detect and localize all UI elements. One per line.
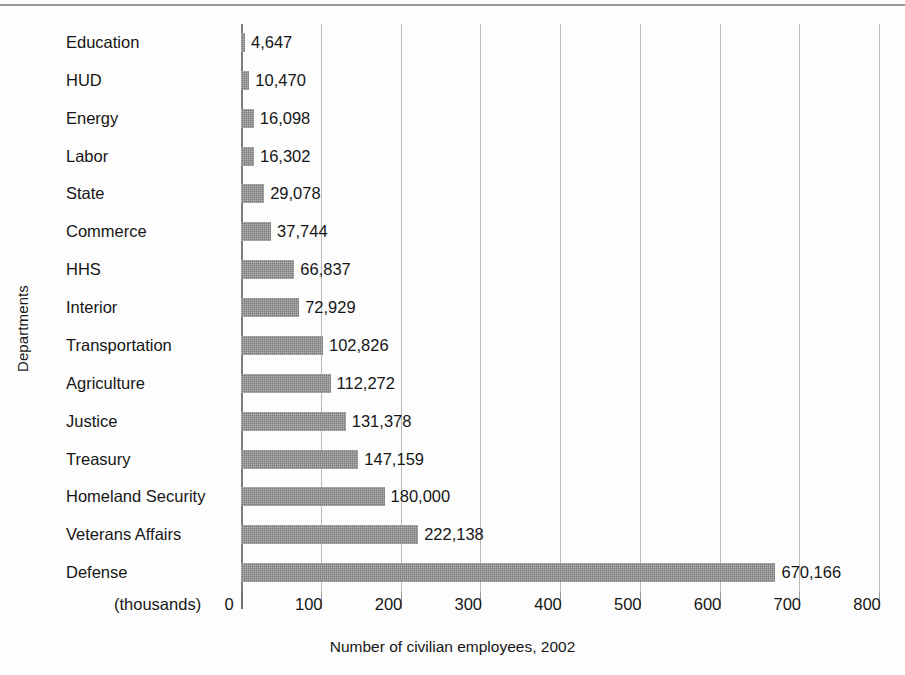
x-axis-title: Number of civilian employees, 2002 [0,638,905,656]
category-label-cell: Transportation [66,327,231,364]
bar [241,563,775,582]
category-label: HHS [66,259,101,279]
bar-row: Justice131,378 [241,403,879,440]
bar [241,260,294,279]
bar-rows: Education4,647HUD10,470Energy16,098Labor… [241,24,879,592]
category-label-cell: Veterans Affairs [66,516,231,553]
category-label: Education [66,32,139,52]
x-tick-label: 600 [694,592,722,616]
y-axis-title: Departments [14,229,31,429]
bar-row: Veterans Affairs222,138 [241,516,879,553]
bar-row: Energy16,098 [241,100,879,137]
bar [241,109,254,128]
bar-value-label: 131,378 [352,411,412,431]
bar-row: Transportation102,826 [241,327,879,364]
category-label-cell: Interior [66,289,231,326]
bar [241,184,264,203]
x-tick-label: 100 [295,592,323,616]
bar-value-label: 102,826 [329,335,389,355]
bar [241,147,254,166]
bar-value-label: 16,302 [260,146,310,166]
category-label-cell: Defense [66,554,231,591]
category-label: Transportation [66,335,172,355]
category-label: Labor [66,146,108,166]
category-label-cell: Treasury [66,441,231,478]
bar [241,487,385,506]
bar [241,374,331,393]
bar-value-label: 112,272 [337,373,395,393]
bar [241,222,271,241]
bar-row: HHS66,837 [241,251,879,288]
bar-value-label: 66,837 [300,259,350,279]
category-label: Energy [66,108,118,128]
bar-value-label: 72,929 [305,297,355,317]
x-axis-tick-labels: 0100200300400500600700800 [0,592,905,618]
plot-area: Education4,647HUD10,470Energy16,098Labor… [241,24,879,592]
bar-value-label: 37,744 [277,221,327,241]
category-label: HUD [66,70,102,90]
bar [241,336,323,355]
x-tick-label: 300 [454,592,482,616]
bar-row: Homeland Security180,000 [241,478,879,515]
bar-value-label: 4,647 [251,32,292,52]
bar-row: State29,078 [241,175,879,212]
bar [241,525,418,544]
bar-row: Treasury147,159 [241,441,879,478]
bar-row: Interior72,929 [241,289,879,326]
x-tick-label: 0 [224,592,233,616]
bar-row: Agriculture112,272 [241,365,879,402]
category-label-cell: Commerce [66,213,231,250]
bar [241,450,358,469]
page-top-rule [0,4,905,6]
bar-chart: Departments Education4,647HUD10,470Energ… [0,0,905,675]
bar-value-label: 180,000 [391,486,451,506]
category-label-cell: State [66,175,231,212]
bar-row: Commerce37,744 [241,213,879,250]
category-label-cell: HUD [66,62,231,99]
category-label: Agriculture [66,373,145,393]
bar [241,33,245,52]
category-label-cell: Homeland Security [66,478,231,515]
bar-row: Labor16,302 [241,138,879,175]
bar-value-label: 670,166 [781,562,841,582]
x-tick-label: 400 [534,592,562,616]
bar-value-label: 16,098 [260,108,310,128]
bar-value-label: 10,470 [255,70,305,90]
category-label: State [66,183,105,203]
bar-row: Defense670,166 [241,554,879,591]
category-label: Veterans Affairs [66,524,181,544]
bar-value-label: 147,159 [364,449,424,469]
bar [241,412,346,431]
bar-row: HUD10,470 [241,62,879,99]
category-label-cell: Agriculture [66,365,231,402]
category-label: Interior [66,297,117,317]
category-label-cell: Energy [66,100,231,137]
category-label: Justice [66,411,117,431]
category-label-cell: Justice [66,403,231,440]
x-tick-label: 800 [853,592,881,616]
category-label-cell: HHS [66,251,231,288]
category-label-cell: Labor [66,138,231,175]
x-tick-label: 700 [773,592,801,616]
bar [241,71,249,90]
category-label: Homeland Security [66,486,205,506]
category-label: Defense [66,562,127,582]
x-tick-label: 500 [614,592,642,616]
bar-row: Education4,647 [241,24,879,61]
bar-value-label: 222,138 [424,524,484,544]
category-label: Treasury [66,449,131,469]
x-tick-label: 200 [375,592,403,616]
bar [241,298,299,317]
bar-value-label: 29,078 [270,183,320,203]
category-label: Commerce [66,221,147,241]
gridline-800 [879,24,880,592]
category-label-cell: Education [66,24,231,61]
